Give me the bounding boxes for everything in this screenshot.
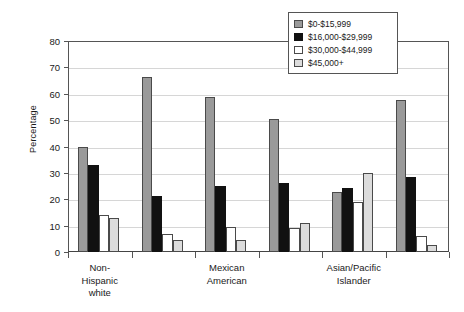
y-tick-label: 10 [20,220,60,231]
x-axis-category-label: MexicanAmerican [167,262,287,287]
x-tick-mark [322,252,323,258]
y-tick-label: 80 [20,36,60,47]
bar [173,240,183,252]
legend-item-label: $0-$15,999 [308,19,351,29]
y-tick-label: 60 [20,88,60,99]
bar [109,218,119,252]
y-tick-label: 70 [20,62,60,73]
legend-swatch-icon [294,46,303,54]
bar [279,183,289,252]
bar [427,245,437,252]
bar [363,173,373,252]
bar [142,77,152,252]
y-tick-label: 30 [20,167,60,178]
y-tick-label: 40 [20,141,60,152]
bar [269,119,279,252]
x-axis-category-label-line: Asian/Pacific [294,262,414,275]
bar [236,240,246,252]
bar [332,192,342,252]
legend-item[interactable]: $0-$15,999 [294,17,392,30]
x-tick-mark [195,252,196,258]
legend-swatch-icon [294,33,303,41]
bar [215,186,225,252]
bar [162,234,172,252]
x-tick-mark [449,252,450,258]
bar [353,202,363,252]
legend-item-label: $16,000-$29,999 [308,32,372,42]
x-axis-category-label-line: Non- [40,262,160,275]
bar [205,97,215,252]
bar [289,228,299,252]
legend-item[interactable]: $45,000+ [294,56,392,69]
bar [396,100,406,252]
bar [342,188,352,252]
bar [99,215,109,252]
legend-swatch-icon [294,20,303,28]
legend-swatch-icon [294,59,303,67]
x-tick-mark [132,252,133,258]
y-tick-label: 20 [20,194,60,205]
legend-item-label: $45,000+ [308,58,344,68]
bar-chart: Percentage 01020304050607080 Non-Hispani… [0,0,464,312]
x-axis-category-label: Asian/PacificIslander [294,262,414,287]
y-tick-label: 0 [20,247,60,258]
legend-item[interactable]: $30,000-$44,999 [294,43,392,56]
x-axis-category-label-line: American [167,275,287,288]
x-axis-category-label: Non-Hispanicwhite [40,262,160,300]
x-tick-mark [259,252,260,258]
bar [406,177,416,252]
bar [152,196,162,252]
x-axis-category-label-line: Hispanic [40,275,160,288]
y-tick-label: 50 [20,115,60,126]
x-axis-category-label-line: Islander [294,275,414,288]
legend-item[interactable]: $16,000-$29,999 [294,30,392,43]
x-tick-mark [68,252,69,258]
legend: $0-$15,999$16,000-$29,999$30,000-$44,999… [288,12,398,74]
bar [88,165,98,252]
x-axis-category-label-line: Mexican [167,262,287,275]
x-axis-category-label-line: white [40,287,160,300]
bar [300,223,310,252]
bar [78,147,88,252]
bar [226,227,236,252]
x-tick-mark [386,252,387,258]
bar [416,236,426,252]
legend-item-label: $30,000-$44,999 [308,45,372,55]
